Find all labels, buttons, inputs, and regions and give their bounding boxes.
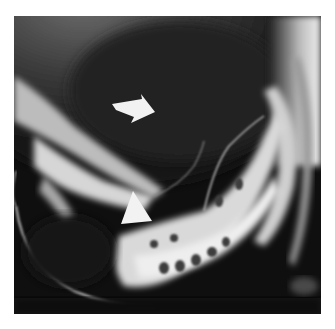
- radiograph-svg: [14, 16, 321, 314]
- radiograph-image: [14, 16, 321, 314]
